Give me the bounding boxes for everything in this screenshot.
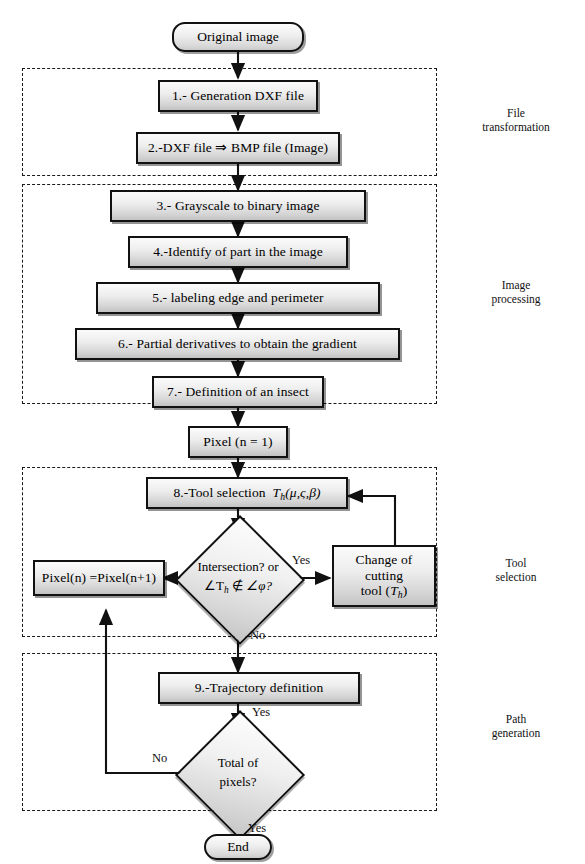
node-step-1[interactable]: 1.- Generation DXF file [158, 80, 318, 112]
change-tool-T: T [390, 583, 398, 598]
node-decision-intersection[interactable]: Intersection? or ∠Th ∉ ∠φ? [194, 534, 282, 622]
node-label: 3.- Grayscale to binary image [157, 198, 320, 214]
node-pixel-init[interactable]: Pixel (n = 1) [188, 426, 288, 458]
node-label: Change of cutting tool (Th) [340, 552, 428, 600]
step2-suffix: BMP file (Image) [231, 140, 328, 155]
edge-label-text: Yes [252, 705, 270, 719]
node-label: 6.- Partial derivatives to obtain the gr… [118, 336, 357, 352]
flowchart-canvas: File transformation Image processing Too… [0, 0, 585, 864]
node-change-cutting-tool[interactable]: Change of cutting tool (Th) [332, 545, 436, 607]
step8-args: (μ,ς,β) [285, 485, 320, 500]
node-step-2[interactable]: 2.-DXF file ⇒ BMP file (Image) [136, 132, 340, 164]
edge-label-decision1-yes: Yes [292, 554, 310, 567]
node-label: Pixel (n = 1) [203, 434, 272, 450]
node-label: Original image [197, 29, 278, 45]
node-step-4[interactable]: 4.-Identify of part in the image [128, 236, 348, 268]
node-end[interactable]: End [204, 834, 272, 860]
node-label: 5.- labeling edge and perimeter [152, 290, 323, 306]
node-label: 8.-Tool selection Th(μ,ς,β) [173, 485, 320, 502]
step2-prefix: 2.-DXF file [148, 140, 212, 155]
connector-layer [0, 0, 585, 864]
change-tool-line2: tool [361, 583, 382, 598]
node-step-7[interactable]: 7.- Definition of an insect [152, 376, 324, 408]
node-label: End [227, 839, 249, 855]
node-label: Pixel(n) =Pixel(n+1) [42, 570, 156, 586]
edge-label-text: No [152, 751, 167, 765]
edge-label-text: Yes [292, 553, 310, 567]
node-step-9[interactable]: 9.-Trajectory definition [158, 672, 360, 704]
node-label: 4.-Identify of part in the image [153, 244, 323, 260]
edge-label-decision1-no: No [250, 629, 265, 642]
edge-label-step9-yes: Yes [252, 706, 270, 719]
node-label: 7.- Definition of an insect [167, 384, 309, 400]
edge-label-text: Yes [248, 821, 266, 835]
node-step-3[interactable]: 3.- Grayscale to binary image [110, 190, 366, 222]
implies-icon: ⇒ [215, 140, 227, 155]
node-start[interactable]: Original image [172, 22, 304, 52]
step8-prefix: 8.-Tool selection [173, 485, 265, 500]
node-step-6[interactable]: 6.- Partial derivatives to obtain the gr… [75, 328, 400, 360]
node-label: 1.- Generation DXF file [172, 88, 304, 104]
edge-label-decision2-no: No [152, 752, 167, 765]
change-tool-subscript: h [398, 589, 403, 600]
node-step-5[interactable]: 5.- labeling edge and perimeter [96, 282, 380, 314]
node-decision-total-pixels[interactable]: Total of pixels? [194, 729, 282, 817]
edge-label-decision2-yes: Yes [248, 822, 266, 835]
change-tool-line1: Change of cutting [356, 552, 413, 583]
node-pixel-increment[interactable]: Pixel(n) =Pixel(n+1) [33, 560, 165, 596]
node-label: 2.-DXF file ⇒ BMP file (Image) [148, 140, 328, 156]
edge-label-text: No [250, 628, 265, 642]
node-label: 9.-Trajectory definition [195, 680, 324, 696]
node-step-8-tool-selection[interactable]: 8.-Tool selection Th(μ,ς,β) [146, 477, 348, 509]
